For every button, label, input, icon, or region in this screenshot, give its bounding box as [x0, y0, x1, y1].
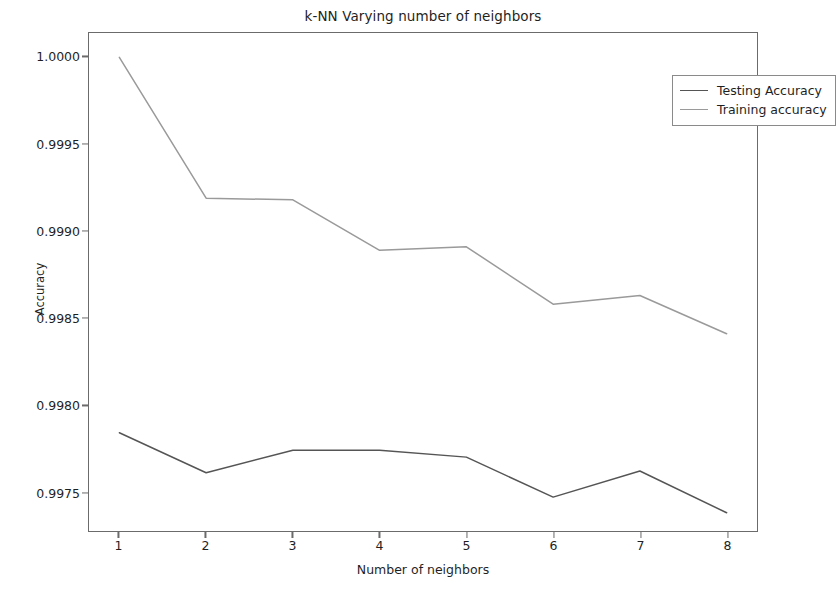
- x-tick-label: 1: [114, 538, 122, 553]
- legend-label-training-accuracy: Training accuracy: [717, 102, 827, 117]
- x-tick-label: 8: [724, 538, 732, 553]
- y-tick-label: 1.0000: [36, 49, 80, 64]
- y-tick-mark: [82, 318, 88, 319]
- x-tick-label: 6: [550, 538, 558, 553]
- y-tick-label: 0.9990: [36, 223, 80, 238]
- y-tick-mark: [82, 492, 88, 493]
- y-tick-mark: [82, 56, 88, 57]
- x-axis-label: Number of neighbors: [88, 562, 758, 577]
- y-tick-mark: [82, 405, 88, 406]
- x-tick-label: 4: [376, 538, 384, 553]
- chart-title: k-NN Varying number of neighbors: [88, 8, 758, 24]
- x-tick-label: 2: [201, 538, 209, 553]
- x-tick-label: 7: [637, 538, 645, 553]
- y-tick-label: 0.9980: [36, 398, 80, 413]
- y-tick-label: 0.9985: [36, 311, 80, 326]
- legend-item-training-accuracy: Training accuracy: [680, 100, 828, 119]
- x-tick-label: 3: [288, 538, 296, 553]
- series-line-testing-accuracy: [119, 433, 726, 513]
- series-line-training-accuracy: [119, 57, 726, 333]
- y-tick-label: 0.9995: [36, 136, 80, 151]
- y-tick-mark: [82, 143, 88, 144]
- plot-lines-svg: [89, 33, 757, 531]
- legend-label-testing-accuracy: Testing Accuracy: [717, 83, 822, 98]
- y-tick-mark: [82, 230, 88, 231]
- plot-area: Testing Accuracy Training accuracy: [88, 32, 758, 532]
- legend-box: Testing Accuracy Training accuracy: [672, 75, 836, 126]
- legend-item-testing-accuracy: Testing Accuracy: [680, 81, 828, 100]
- legend-swatch-training-accuracy: [680, 109, 708, 110]
- x-tick-label: 5: [463, 538, 471, 553]
- legend-swatch-testing-accuracy: [680, 90, 708, 91]
- y-tick-label: 0.9975: [36, 485, 80, 500]
- y-axis-label: Accuracy: [33, 229, 47, 349]
